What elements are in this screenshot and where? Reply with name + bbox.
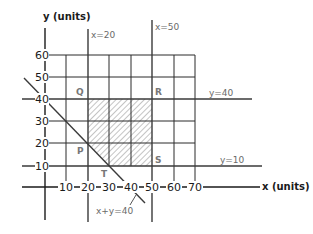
svg-text:50: 50 <box>145 181 159 194</box>
x-ticks: 10 20 30 40 50 60 70 <box>59 181 202 194</box>
point-q: Q <box>76 87 84 97</box>
svg-text:30: 30 <box>102 181 116 194</box>
svg-text:20: 20 <box>35 137 49 150</box>
point-t: T <box>101 169 108 179</box>
point-p: P <box>77 146 84 156</box>
svg-text:30: 30 <box>35 115 49 128</box>
y-axis-label: y (units) <box>43 11 91 22</box>
svg-text:70: 70 <box>188 181 202 194</box>
grid <box>45 55 195 187</box>
svg-text:60: 60 <box>35 49 49 62</box>
label-x-20: x=20 <box>91 30 116 40</box>
label-y-40: y=40 <box>209 88 234 98</box>
x-axis-label: x (units) <box>262 181 309 192</box>
leader-arrow <box>130 195 136 205</box>
svg-text:40: 40 <box>35 93 49 106</box>
point-r: R <box>155 87 162 97</box>
svg-text:10: 10 <box>35 160 49 173</box>
svg-text:50: 50 <box>35 71 49 84</box>
label-x-plus-y-40: x+y=40 <box>96 206 133 216</box>
svg-text:40: 40 <box>124 181 138 194</box>
label-y-10: y=10 <box>220 155 245 165</box>
point-s: S <box>155 155 161 165</box>
svg-text:60: 60 <box>167 181 181 194</box>
label-x-50: x=50 <box>155 22 180 32</box>
feasible-region-diagram: y (units) x (units) 60 50 40 30 20 10 10… <box>0 0 313 234</box>
feasible-region <box>88 99 152 166</box>
svg-text:10: 10 <box>59 181 73 194</box>
y-ticks: 60 50 40 30 20 10 <box>35 49 49 173</box>
svg-text:20: 20 <box>81 181 95 194</box>
